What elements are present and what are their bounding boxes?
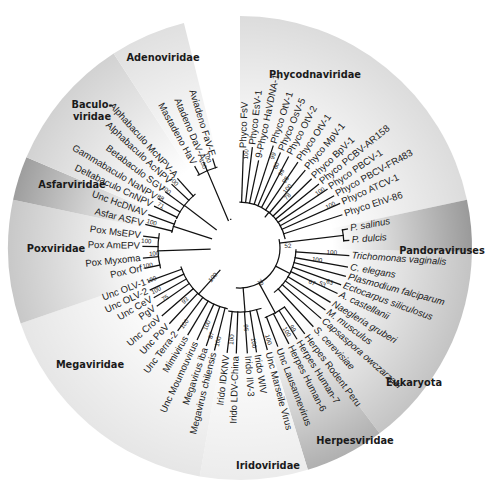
bootstrap-value: 100	[227, 334, 235, 345]
clade-label: Poxviridae	[27, 243, 86, 254]
clade-label: Iridoviridae	[236, 460, 300, 471]
bootstrap-value: 95	[243, 324, 251, 332]
bootstrap-value: 100	[250, 337, 258, 349]
clade-label: Eukaryota	[386, 377, 442, 388]
clade-label: Asfarviridae	[38, 179, 106, 190]
clade-label: viridae	[73, 111, 112, 122]
bootstrap-value: 100	[327, 248, 338, 256]
clade-label: Megaviridae	[56, 359, 125, 370]
bootstrap-value: 100	[242, 148, 250, 159]
clade-label: Pandoraviruses	[399, 245, 485, 256]
leaf-label: Pox AmEPV	[88, 239, 141, 251]
clade-label: Phycodnaviridae	[269, 69, 361, 80]
clade-label: Adenoviridae	[126, 52, 200, 63]
phylogenetic-tree: Phyco FsVPhyco EsV-19-Phyco HaVDNA-1Phyc…	[0, 0, 491, 500]
bootstrap-value: 100	[149, 249, 160, 257]
clade-label: Baculo-	[71, 99, 112, 110]
branch	[342, 229, 347, 230]
bootstrap-value: 52	[284, 242, 292, 249]
bootstrap-value: 100	[141, 237, 152, 245]
clade-label: Herpesviridae	[316, 435, 394, 446]
